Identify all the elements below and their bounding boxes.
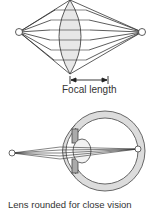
convex-lens-top	[16, 0, 146, 74]
eye-caption: Lens rounded for close vision	[8, 199, 132, 210]
focal-length-arrow	[70, 76, 108, 84]
eye-cross-section	[9, 111, 145, 191]
focal-length-label: Focal length	[62, 84, 116, 95]
lens-focal-diagram	[0, 0, 165, 217]
